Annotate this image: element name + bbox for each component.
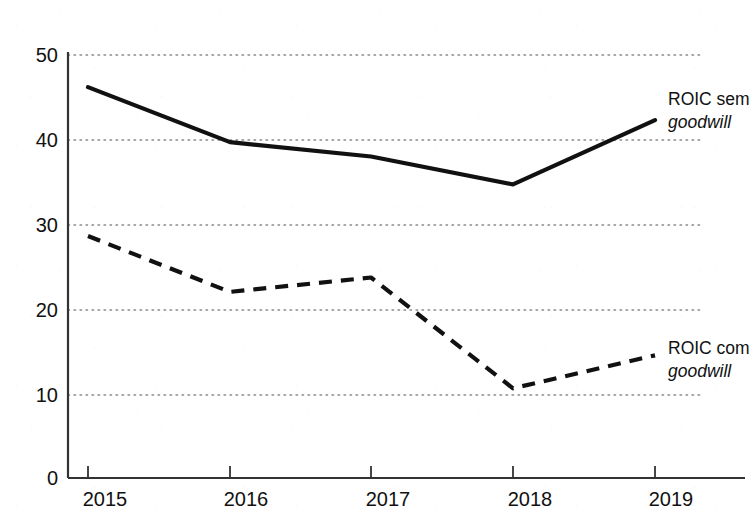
y-tick-label-10: 10 (36, 384, 58, 406)
legend-roic-sem-goodwill: ROIC sem goodwill (668, 88, 750, 134)
y-tick-label-20: 20 (36, 299, 58, 321)
gridlines (68, 55, 700, 395)
legend-sem-line2: goodwill (668, 111, 750, 134)
x-tick-label-2019: 2019 (649, 488, 694, 510)
legend-com-line1: ROIC com (668, 337, 750, 360)
legend-com-line2: goodwill (668, 360, 750, 383)
x-tick-label-2018: 2018 (508, 488, 553, 510)
legend-sem-line1: ROIC sem (668, 88, 750, 111)
line-chart: 50 40 30 20 10 0 2015 2016 2017 2018 201… (0, 0, 751, 529)
x-tick-label-2015: 2015 (83, 488, 128, 510)
y-tick-label-50: 50 (36, 44, 58, 66)
x-axis-labels: 2015 2016 2017 2018 2019 (83, 488, 694, 510)
x-tick-label-2017: 2017 (366, 488, 411, 510)
series-line-roic-sem-goodwill (88, 87, 655, 184)
x-axis-ticks (88, 466, 655, 478)
x-tick-label-2016: 2016 (224, 488, 269, 510)
legend-roic-com-goodwill: ROIC com goodwill (668, 337, 750, 383)
series-line-roic-com-goodwill (88, 236, 655, 388)
chart-container: 50 40 30 20 10 0 2015 2016 2017 2018 201… (0, 0, 751, 529)
y-axis-labels: 50 40 30 20 10 0 (36, 44, 58, 489)
y-tick-label-0: 0 (47, 467, 58, 489)
y-tick-label-30: 30 (36, 214, 58, 236)
y-tick-label-40: 40 (36, 129, 58, 151)
